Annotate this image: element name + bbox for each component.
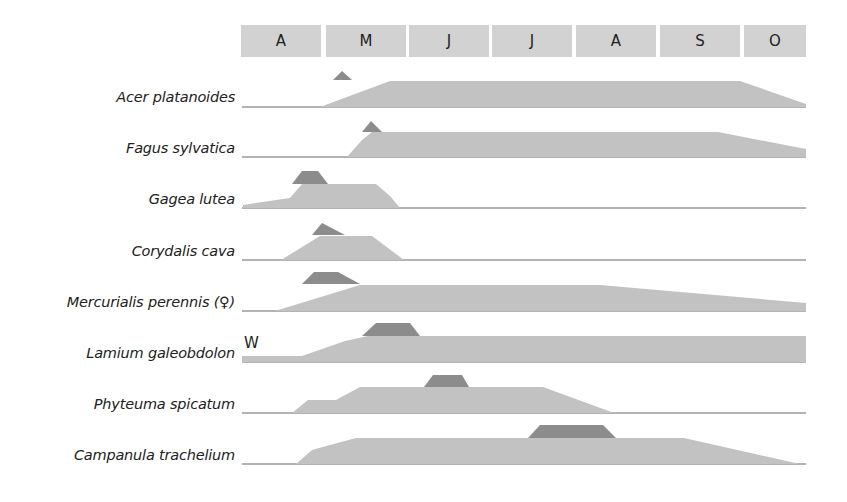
activity-acer: [320, 81, 806, 107]
row-corydalis: [281, 223, 404, 260]
row-fagus: [347, 121, 806, 157]
flowering-campanula: [528, 425, 616, 438]
row-gagea: [243, 171, 400, 208]
row-phyteuma: [292, 375, 614, 413]
activity-gagea: [243, 184, 400, 208]
flowering-mercurialis: [302, 272, 360, 284]
activity-fagus: [347, 132, 806, 157]
flowering-fagus: [362, 121, 382, 132]
row-lamium: [242, 323, 806, 362]
activity-corydalis: [281, 236, 404, 260]
activity-phyteuma: [292, 387, 614, 413]
flowering-phyteuma: [424, 375, 469, 387]
flowering-lamium: [362, 323, 420, 336]
flowering-acer: [333, 71, 352, 80]
row-campanula: [296, 425, 800, 464]
phenology-plot: [0, 0, 847, 502]
flowering-gagea: [292, 171, 328, 184]
flowering-corydalis: [312, 223, 345, 235]
row-mercurialis: [275, 272, 806, 311]
activity-lamium: [242, 336, 806, 362]
row-acer: [320, 71, 806, 107]
activity-campanula: [296, 438, 800, 464]
activity-mercurialis: [275, 285, 806, 311]
